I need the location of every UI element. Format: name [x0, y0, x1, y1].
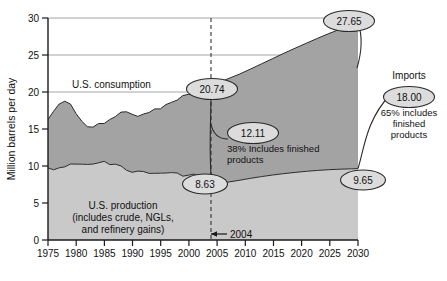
imports-area: [48, 22, 358, 182]
y-tick-label-10: 10: [28, 161, 40, 172]
callout-imports-2030-note-line1: 65% includes: [381, 107, 438, 118]
callout-production-2004[interactable]: 8.63: [183, 174, 228, 194]
x-tick-label-2005: 2005: [206, 248, 229, 259]
x-tick-label-1980: 1980: [65, 248, 88, 259]
production-label-line2: (includes crude, NGLs,: [72, 212, 174, 223]
callout-production-2030[interactable]: 9.65: [341, 170, 386, 190]
x-tick-label-1995: 1995: [150, 248, 173, 259]
callout-imports-2004-note-line1: 38% Includes finished: [227, 143, 319, 154]
callout-consumption-2030-value: 27.65: [336, 16, 361, 27]
callout-imports-2030-value: 18.00: [396, 92, 421, 103]
y-tick-label-30: 30: [28, 13, 40, 24]
production-label-line3: and refinery gains): [82, 224, 165, 235]
callout-production-2030-value: 9.65: [353, 175, 373, 186]
x-tick-label-2015: 2015: [262, 248, 285, 259]
x-tick-label-1985: 1985: [93, 248, 116, 259]
year-marker-2004-label: 2004: [230, 229, 253, 240]
oil-supply-area-chart: 30 25 20 15 10 5 0 Million barrels per d…: [0, 0, 447, 281]
callout-imports-2004-note-line2: products: [227, 154, 264, 165]
callout-imports-2030-note-line2: finished: [393, 118, 426, 129]
callout-imports-2030[interactable]: 18.00: [384, 87, 435, 108]
consumption-series-label: U.S. consumption: [72, 79, 151, 90]
y-tick-label-25: 25: [28, 50, 40, 61]
x-tick-label-2020: 2020: [290, 248, 313, 259]
y-tick-label-0: 0: [33, 235, 39, 246]
callout-imports-2030-note-line3: products: [391, 129, 428, 140]
y-tick-label-20: 20: [28, 87, 40, 98]
x-tick-label-2000: 2000: [178, 248, 201, 259]
chart-container: 30 25 20 15 10 5 0 Million barrels per d…: [0, 0, 447, 281]
y-ticks: [42, 18, 48, 240]
y-tick-label-5: 5: [33, 198, 39, 209]
x-tick-label-2025: 2025: [319, 248, 342, 259]
x-tick-label-2010: 2010: [234, 248, 257, 259]
callout-consumption-2004[interactable]: 20.74: [187, 79, 238, 100]
y-tick-labels: 30 25 20 15 10 5 0: [28, 13, 40, 246]
x-ticks: [48, 240, 358, 246]
callout-imports-2004-value: 12.11: [241, 128, 266, 139]
x-tick-label-1975: 1975: [37, 248, 60, 259]
production-label-line1: U.S. production: [89, 200, 158, 211]
x-tick-labels: 1975 1980 1985 1990 1995 2000 2005 2010 …: [37, 248, 370, 259]
callout-production-2004-value: 8.63: [195, 179, 215, 190]
callout-imports-2004[interactable]: 12.11: [228, 123, 279, 144]
callout-consumption-2030[interactable]: 27.65: [324, 11, 375, 32]
callout-consumption-2004-value: 20.74: [199, 84, 224, 95]
y-tick-label-15: 15: [28, 124, 40, 135]
x-tick-label-2030: 2030: [347, 248, 370, 259]
y-axis-title: Million barrels per day: [5, 77, 17, 180]
x-tick-label-1990: 1990: [121, 248, 144, 259]
imports-series-label: Imports: [392, 70, 425, 81]
